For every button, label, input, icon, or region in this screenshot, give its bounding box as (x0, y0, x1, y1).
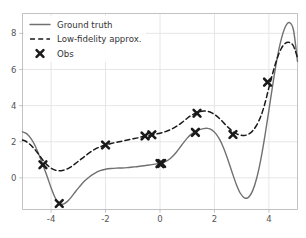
x-tick-label: 4 (266, 214, 271, 224)
chart-legend: Ground truthLow-fidelity approx.Obs (24, 16, 146, 62)
y-tick-label: 6 (11, 65, 16, 75)
x-tick-label: 2 (212, 214, 217, 224)
y-tick-label: 8 (11, 28, 16, 38)
legend-label: Ground truth (57, 20, 113, 30)
line-chart: -4-2024 02468 Ground truthLow-fidelity a… (0, 0, 306, 238)
y-tick-label: 4 (11, 101, 16, 111)
x-tick-label: -2 (101, 214, 109, 224)
y-tick-label: 0 (11, 173, 16, 183)
legend-label: Obs (57, 49, 74, 59)
x-tick-label: 0 (157, 214, 162, 224)
x-tick-label: -4 (47, 214, 55, 224)
y-tick-label: 2 (11, 137, 16, 147)
chart-figure: -4-2024 02468 Ground truthLow-fidelity a… (0, 0, 306, 238)
legend-label: Low-fidelity approx. (57, 34, 141, 44)
